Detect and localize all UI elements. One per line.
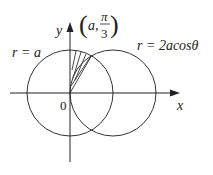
svg-text:3: 3: [101, 26, 108, 41]
label-r-equals-a: r = a: [12, 45, 41, 60]
hatch-lines: [71, 51, 91, 86]
label-r-equals-2acos: r = 2acosθ: [137, 38, 199, 53]
x-axis-label: x: [176, 98, 184, 113]
svg-text:(: (: [79, 10, 88, 39]
point-label: ( a, π 3 ): [79, 9, 119, 41]
ray-pi-over-3: [70, 56, 92, 93]
svg-text:): ): [110, 10, 119, 39]
y-axis-label: y: [54, 23, 63, 38]
origin-label: 0: [60, 98, 67, 113]
svg-text:π: π: [101, 9, 108, 24]
x-axis-arrow-icon: [170, 90, 180, 97]
svg-text:a,: a,: [88, 18, 99, 33]
polar-diagram: x y 0 r = a r = 2acosθ ( a, π 3 ): [0, 0, 213, 175]
y-axis-arrow-icon: [67, 22, 74, 32]
